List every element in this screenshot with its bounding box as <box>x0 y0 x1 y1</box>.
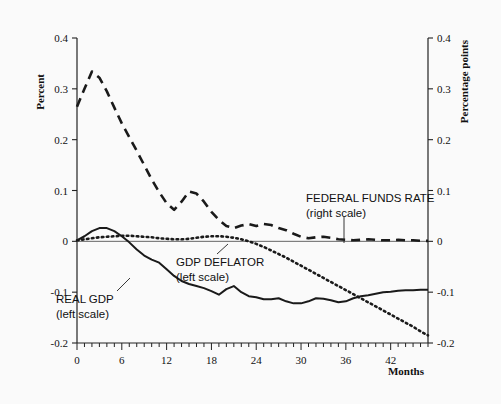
left-axis-title: Percent <box>34 74 46 110</box>
right-y-tick-label: 0.4 <box>437 32 451 44</box>
x-tick-label: 30 <box>296 354 308 366</box>
right-y-tick-label: 0 <box>437 235 443 247</box>
x-axis-title: Months <box>388 365 425 377</box>
left-y-tick-label: -0.2 <box>51 337 68 349</box>
x-tick-label: 24 <box>251 354 263 366</box>
chart-figure: Percent Percentage points Months 0.40.30… <box>0 0 501 404</box>
right-y-tick-label: 0.3 <box>437 83 451 95</box>
economic-impulse-response-chart: Percent Percentage points Months 0.40.30… <box>0 0 501 404</box>
x-tick-label: 6 <box>119 354 125 366</box>
left-y-tick-label: 0.3 <box>54 83 68 95</box>
x-tick-label: 12 <box>161 354 172 366</box>
left-y-tick-label: 0.1 <box>54 185 68 197</box>
x-tick-label: 0 <box>74 354 80 366</box>
series-label-gdp-deflator: GDP DEFLATOR <box>176 256 264 268</box>
right-axis-title: Percentage points <box>458 39 470 123</box>
left-y-tick-label: 0 <box>63 235 69 247</box>
left-y-tick-label: 0.4 <box>54 32 68 44</box>
series-label-federal-funds-rate: FEDERAL FUNDS RATE <box>306 192 435 204</box>
series-scale-note-real-gdp: (left scale) <box>56 308 109 320</box>
series-label-real-gdp: REAL GDP <box>56 293 114 305</box>
x-tick-label: 18 <box>206 354 218 366</box>
right-y-tick-label: 0.2 <box>437 134 451 146</box>
x-tick-label: 42 <box>385 354 396 366</box>
series-scale-note-federal-funds-rate: (right scale) <box>306 207 366 219</box>
series-scale-note-gdp-deflator: (left scale) <box>176 271 229 283</box>
left-y-tick-label: 0.2 <box>54 134 68 146</box>
right-y-tick-label: -0.2 <box>437 337 454 349</box>
right-y-tick-label: -0.1 <box>437 286 454 298</box>
x-tick-label: 36 <box>340 354 352 366</box>
right-y-tick-label: 0.1 <box>437 185 451 197</box>
